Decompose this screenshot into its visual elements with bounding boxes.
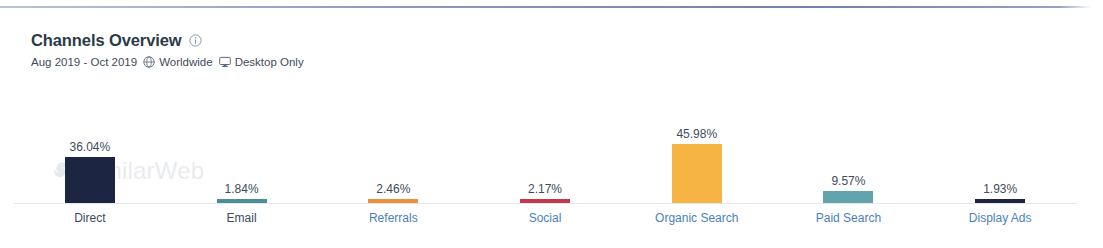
card-subtitle: Aug 2019 - Oct 2019 Worldwide Desktop On… (31, 55, 304, 69)
category-label-direct: Direct (14, 211, 166, 226)
chart-column: 45.98%Organic Search (621, 110, 773, 248)
bar-stack: 9.57% (773, 174, 925, 203)
device-label: Desktop Only (235, 55, 304, 69)
bar-value-label: 2.17% (528, 182, 562, 196)
bar-value-label: 45.98% (676, 127, 717, 141)
bar-value-label: 9.57% (831, 174, 865, 188)
bar-organic-search[interactable] (672, 144, 722, 203)
bar-stack: 36.04% (14, 140, 166, 203)
card-top-divider (0, 6, 1092, 8)
bar-zone: 2.46% (317, 110, 469, 203)
chart-column: 2.46%Referrals (317, 110, 469, 248)
title-row: Channels Overview (31, 30, 304, 50)
bar-display-ads[interactable] (975, 199, 1025, 203)
bar-referrals[interactable] (368, 199, 418, 203)
bar-value-label: 1.84% (225, 182, 259, 196)
chart-column: 2.17%Social (469, 110, 621, 248)
chart-column: 9.57%Paid Search (773, 110, 925, 248)
region-label: Worldwide (159, 55, 212, 69)
category-label-display-ads[interactable]: Display Ads (924, 211, 1076, 226)
bar-direct[interactable] (65, 157, 115, 203)
card-header: Channels Overview Aug 2019 - Oct 2019 Wo… (31, 30, 304, 69)
bar-email[interactable] (217, 199, 267, 203)
info-circle-icon[interactable] (189, 34, 202, 47)
channels-overview-card: Channels Overview Aug 2019 - Oct 2019 Wo… (0, 0, 1103, 248)
category-label-organic-search[interactable]: Organic Search (621, 211, 773, 226)
chart-column: 1.93%Display Ads (924, 110, 1076, 248)
desktop-monitor-icon (219, 56, 231, 68)
bar-stack: 2.46% (317, 182, 469, 203)
channels-bar-chart: 36.04%Direct1.84%Email2.46%Referrals2.17… (0, 110, 1103, 248)
bar-stack: 45.98% (621, 127, 773, 203)
date-range: Aug 2019 - Oct 2019 (31, 55, 137, 69)
bar-zone: 9.57% (773, 110, 925, 203)
category-label-paid-search[interactable]: Paid Search (773, 211, 925, 226)
page-title: Channels Overview (31, 30, 182, 50)
bar-value-label: 1.93% (983, 182, 1017, 196)
category-label-email: Email (166, 211, 318, 226)
bar-stack: 1.93% (924, 182, 1076, 203)
bar-zone: 2.17% (469, 110, 621, 203)
bar-stack: 2.17% (469, 182, 621, 203)
bar-social[interactable] (520, 199, 570, 203)
category-label-social[interactable]: Social (469, 211, 621, 226)
chart-column: 36.04%Direct (14, 110, 166, 248)
bar-zone: 1.84% (166, 110, 318, 203)
bar-value-label: 36.04% (70, 140, 111, 154)
chart-columns: 36.04%Direct1.84%Email2.46%Referrals2.17… (14, 110, 1076, 248)
bar-zone: 1.93% (924, 110, 1076, 203)
globe-icon (143, 56, 155, 68)
category-label-referrals[interactable]: Referrals (317, 211, 469, 226)
bar-zone: 36.04% (14, 110, 166, 203)
bar-stack: 1.84% (166, 182, 318, 203)
chart-column: 1.84%Email (166, 110, 318, 248)
bar-zone: 45.98% (621, 110, 773, 203)
bar-value-label: 2.46% (376, 182, 410, 196)
bar-paid-search[interactable] (823, 191, 873, 203)
